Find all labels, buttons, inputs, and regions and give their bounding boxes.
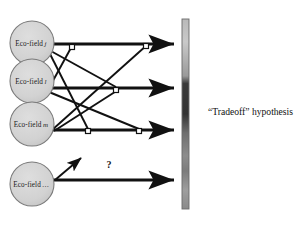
junction-5 — [137, 129, 142, 134]
node-eco-field-l[interactable]: Eco-fieldl — [10, 59, 54, 103]
junction-3 — [114, 88, 119, 93]
node-label: Eco-fieldj — [15, 40, 46, 48]
tradeoff-hypothesis-label: “Tradeoff” hypothesis — [208, 106, 293, 117]
junction-1 — [70, 45, 75, 50]
unknown-link-arrow — [55, 158, 81, 180]
ecofield-tradeoff-diagram: ? Eco-fieldj Eco-fieldl Eco-fieldm — [0, 0, 300, 226]
node-group: Eco-fieldj Eco-fieldl Eco-fieldm Eco-fie… — [10, 21, 54, 206]
junction-4 — [86, 129, 91, 134]
node-eco-field-m[interactable]: Eco-fieldm — [10, 102, 54, 146]
link-l-to-row3 — [49, 92, 139, 129]
link-j-to-row3 — [49, 52, 88, 129]
question-mark-label: ? — [107, 159, 112, 170]
node-eco-field-ellipsis[interactable]: Eco-field… — [10, 162, 54, 206]
tradeoff-gradient-bar — [182, 19, 189, 209]
junction-2 — [144, 44, 149, 49]
node-label: Eco-fieldm — [14, 121, 48, 129]
node-eco-field-j[interactable]: Eco-fieldj — [10, 21, 54, 65]
node-label: Eco-fieldl — [15, 78, 46, 86]
node-label: Eco-field… — [13, 181, 49, 189]
main-arrow-group — [52, 44, 174, 180]
diagram-canvas: ? Eco-fieldj Eco-fieldl Eco-fieldm — [0, 0, 300, 226]
